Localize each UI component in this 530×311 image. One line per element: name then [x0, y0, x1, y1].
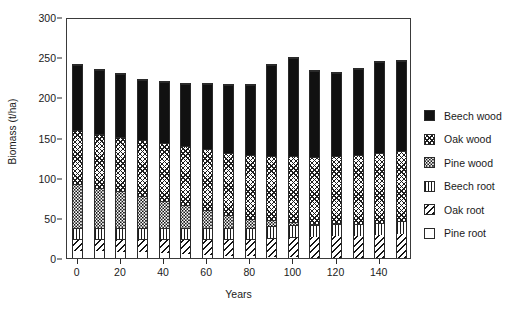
bar-segment	[203, 149, 212, 210]
bar-segment	[289, 257, 298, 258]
bar-segment	[289, 237, 298, 257]
bar-segment	[116, 228, 125, 239]
bar-segment	[73, 184, 82, 227]
bar-stack	[288, 57, 299, 258]
bar-segment	[95, 188, 104, 228]
x-axis-tick-label: 80	[243, 266, 255, 278]
bar-segment	[224, 153, 233, 215]
bar-segment	[310, 237, 319, 258]
bar-segment	[95, 228, 104, 239]
bar-segment	[181, 205, 190, 227]
legend-item: Oak root	[424, 198, 528, 222]
bar-segment	[375, 223, 384, 235]
bar-segment	[181, 254, 190, 258]
bar-segment	[95, 70, 104, 134]
bar-segment	[73, 130, 82, 184]
bar-segment	[181, 228, 190, 239]
x-axis-tick-label: 0	[74, 266, 80, 278]
bar-stack	[309, 70, 320, 258]
y-axis-tick-mark	[57, 58, 62, 59]
bar-segment	[181, 239, 190, 254]
bar-segment	[224, 256, 233, 258]
x-axis-tick-mark	[163, 259, 164, 264]
bar-segment	[73, 251, 82, 258]
y-axis-tick-mark	[57, 138, 62, 139]
bar-segment	[203, 239, 212, 255]
bar-segment	[375, 153, 384, 223]
legend-swatch-icon	[424, 204, 435, 215]
bar-stack	[72, 64, 83, 258]
bar-segment	[203, 228, 212, 239]
y-axis-tick-label: 250	[38, 52, 56, 64]
y-axis-tick-label: 200	[38, 92, 56, 104]
bar-stack	[331, 72, 342, 258]
legend-item-label: Beech wood	[444, 110, 502, 122]
bar-stack	[245, 84, 256, 258]
bar-segment	[397, 151, 406, 221]
bar-segment	[138, 80, 147, 140]
x-axis-tick-label: 140	[370, 266, 388, 278]
y-axis-tick-label: 0	[50, 253, 56, 265]
bar-segment	[203, 210, 212, 228]
legend-swatch-icon	[424, 134, 435, 145]
bar-segment	[73, 65, 82, 131]
bar-segment	[160, 239, 169, 253]
bar-stack	[115, 73, 126, 258]
bar-segment	[289, 225, 298, 237]
legend-item: Pine root	[424, 222, 528, 246]
bar-segment	[138, 140, 147, 196]
y-axis-tick-mark	[57, 259, 62, 260]
legend-swatch-icon	[424, 157, 435, 168]
stacked-bar-chart-figure: Biomass (t/ha) 050100150200250300 020406…	[0, 0, 530, 311]
legend-item: Oak wood	[424, 128, 528, 152]
y-axis-tick-mark	[57, 218, 62, 219]
bar-segment	[138, 196, 147, 228]
bar-stack	[223, 84, 234, 258]
y-axis-tick-label: 100	[38, 173, 56, 185]
bar-segment	[267, 226, 276, 238]
bar-segment	[354, 69, 363, 155]
plot-area	[66, 18, 411, 259]
bar-segment	[332, 156, 341, 224]
x-axis-tick-label: 40	[157, 266, 169, 278]
bar-stack	[94, 69, 105, 258]
bar-segment	[73, 228, 82, 239]
bar-segment	[397, 61, 406, 151]
bar-segment	[332, 73, 341, 155]
bar-segment	[224, 228, 233, 239]
bar-segment	[95, 239, 104, 251]
bar-segment	[203, 255, 212, 258]
legend-swatch-icon	[424, 110, 435, 121]
bar-segment	[310, 71, 319, 157]
legend-swatch-icon	[424, 181, 435, 192]
bar-stack	[266, 64, 277, 258]
legend-swatch-icon	[424, 228, 435, 239]
bar-segment	[332, 236, 341, 258]
x-axis-title: Years	[66, 288, 411, 300]
bar-segment	[224, 85, 233, 153]
bar-segment	[138, 239, 147, 253]
bar-stack	[180, 83, 191, 258]
bar-segment	[160, 253, 169, 258]
bar-segment	[354, 155, 363, 224]
bar-segment	[224, 239, 233, 256]
legend-item: Beech wood	[424, 104, 528, 128]
legend-item-label: Oak wood	[444, 133, 491, 145]
bar-stack	[137, 79, 148, 258]
y-axis-tick-label: 150	[38, 133, 56, 145]
y-axis-tick-label: 50	[44, 213, 56, 225]
bar-segment	[246, 155, 255, 219]
bar-segment	[181, 146, 190, 205]
bar-segment	[246, 256, 255, 258]
y-axis-tick-label: 300	[38, 12, 56, 24]
bar-segment	[267, 65, 276, 155]
bar-segment	[73, 239, 82, 251]
bar-segment	[246, 219, 255, 228]
bar-segment	[246, 228, 255, 239]
bar-segment	[203, 84, 212, 150]
y-axis-tick-labels: 050100150200250300	[24, 0, 62, 270]
bar-segment	[116, 191, 125, 228]
bar-segment	[267, 156, 276, 221]
bar-segment	[116, 137, 125, 191]
legend-item-label: Pine wood	[444, 157, 493, 169]
